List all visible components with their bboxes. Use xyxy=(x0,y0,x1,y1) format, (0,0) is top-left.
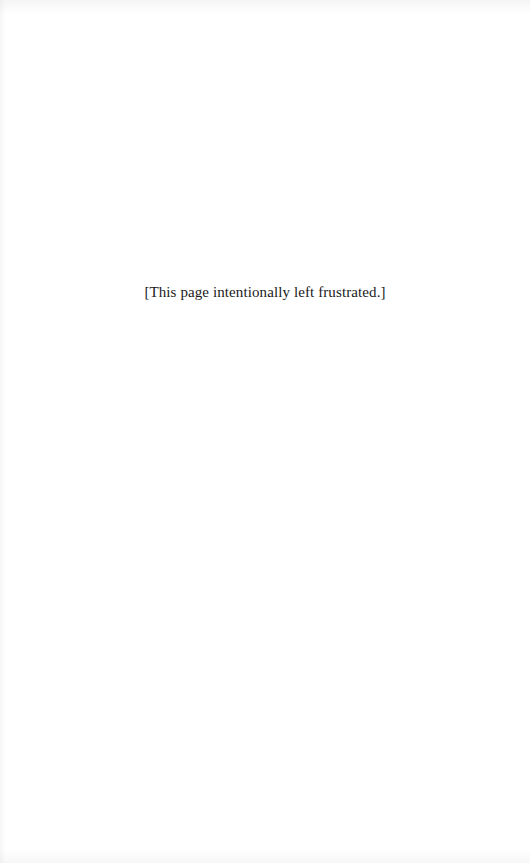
blank-page: [This page intentionally left frustrated… xyxy=(0,0,530,863)
intentionally-blank-notice: [This page intentionally left frustrated… xyxy=(0,284,530,301)
scan-bleed-top xyxy=(0,0,530,14)
scan-bleed-bottom xyxy=(0,849,530,863)
scan-bleed-left xyxy=(0,0,6,863)
